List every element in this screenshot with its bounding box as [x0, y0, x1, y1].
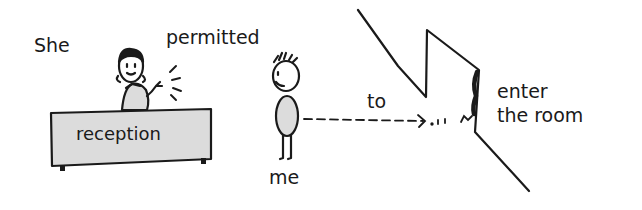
me-figure: [273, 53, 299, 159]
speech-emphasis-icon: [170, 66, 181, 100]
label-action-line1: enter: [497, 82, 548, 101]
label-particle: to: [367, 92, 386, 111]
label-verb: permitted: [166, 28, 260, 47]
label-desk: reception: [76, 125, 161, 143]
dashed-arrow: [304, 115, 472, 127]
label-subject: She: [34, 36, 70, 55]
label-action-line2: the room: [497, 106, 583, 125]
label-object: me: [269, 168, 299, 187]
receptionist-figure: [117, 49, 162, 110]
